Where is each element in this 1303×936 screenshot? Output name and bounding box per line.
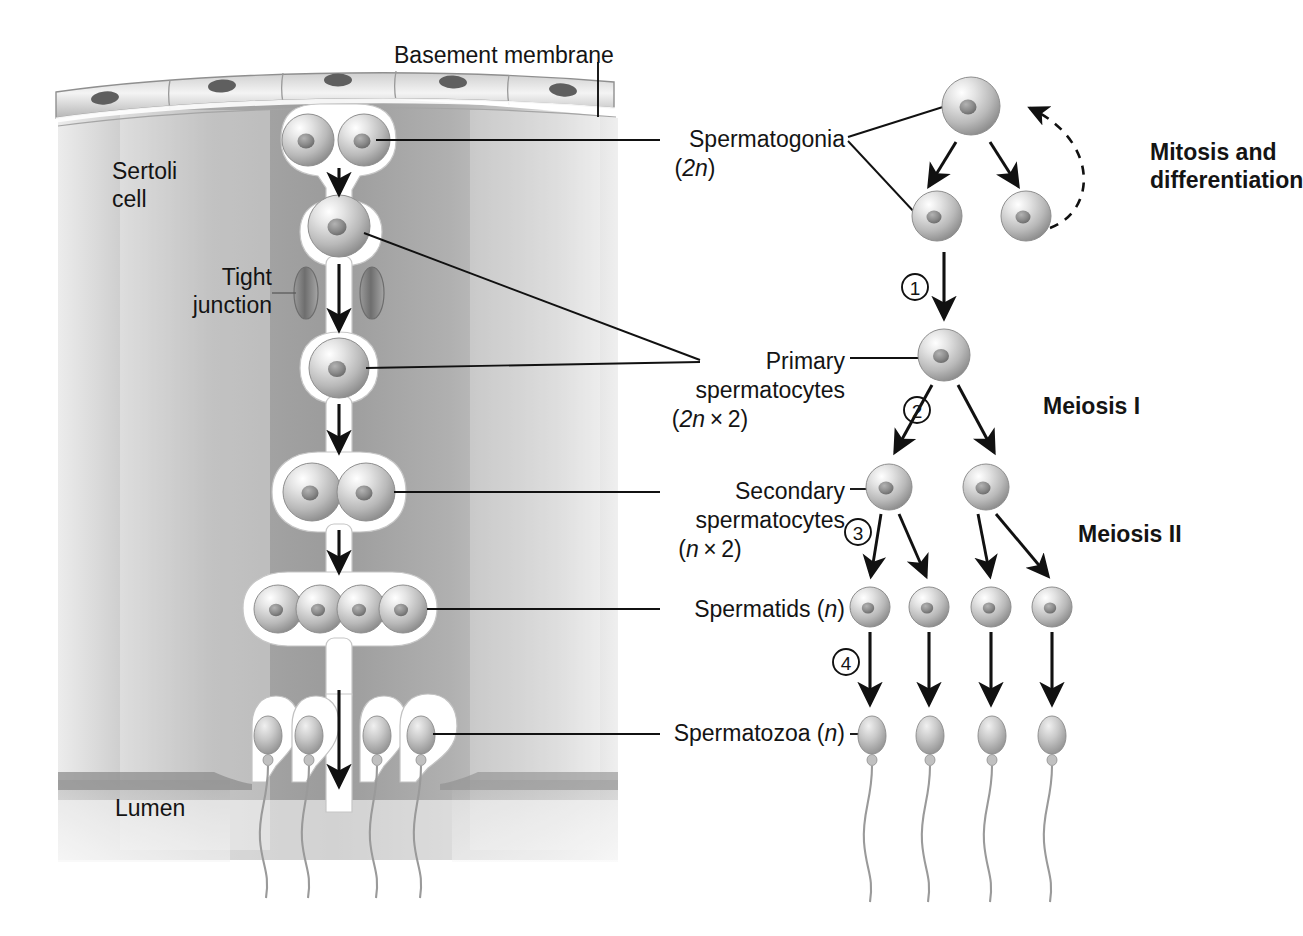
label-spermatozoa: Spermatozoa (n) [525,720,845,747]
cell-spermatid-3 [971,587,1011,627]
cell-secondary-spermatocyte-right [963,464,1009,510]
ploidy-2n-primary: 2n [679,406,705,432]
cell-spermatogonium-daughter-right [1001,191,1051,241]
label-mitosis-line2: differentiation [1150,167,1303,194]
ploidy-n-spermatids: n [825,596,838,622]
label-secondary-spermatocytes-line2: spermatocytes [545,507,845,534]
step-1-number: 1 [895,275,935,302]
cell-spermatid-4 [1032,587,1072,627]
label-mitosis-line1: Mitosis and [1150,139,1277,166]
step-2-number: 2 [897,398,937,425]
label-tight-junction-line1: Tight [52,264,272,291]
cell-spermatozoon-3 [978,716,1006,902]
arrow-meiosis2-b [899,514,926,576]
sertoli-highlight-left [120,110,270,850]
arrow-meiosis2-c [978,514,990,576]
cell-secondary-spermatocyte-left [866,464,912,510]
leader-spermatogonia-to-stem [848,106,946,137]
step-4-number: 4 [826,650,866,677]
lineage-flow [833,77,1084,902]
label-tight-junction-line2: junction [52,292,272,319]
cell-spermatid-1 [850,587,890,627]
label-spermatids: Spermatids (n) [545,596,845,623]
cell-spermatid-2 [909,587,949,627]
tubule-primary-spermatocyte [308,195,370,257]
label-spermatogonia: Spermatogonia [545,126,845,153]
label-secondary-spermatocytes-ploidy: (n × 2) [610,536,810,563]
cell-primary-spermatocyte [918,329,970,381]
cell-spermatogonium-daughter-left [912,191,962,241]
cell-spermatozoon-1 [858,716,886,902]
label-primary-spermatocytes-line2: spermatocytes [545,377,845,404]
arrow-mitosis-left [929,142,956,186]
label-basement-membrane: Basement membrane [394,42,594,69]
cell-spermatogonium-stem [942,77,1000,135]
label-meiosis-1: Meiosis I [1043,393,1140,420]
label-primary-spermatocytes-line1: Primary [545,348,845,375]
label-meiosis-2: Meiosis II [1078,521,1182,548]
step-3-number: 3 [838,520,878,547]
tubule-secondary-spermatocyte-single [309,338,369,398]
cell-spermatozoon-4 [1038,716,1066,902]
cell-spermatozoon-2 [916,716,944,902]
arrow-mitosis-right [990,142,1018,186]
ploidy-n-secondary: n [686,536,699,562]
label-secondary-spermatocytes-line1: Secondary [545,478,845,505]
arrow-meiosis1-right [958,385,994,452]
label-sertoli-cell-line1: Sertoli [112,158,177,185]
label-lumen: Lumen [115,795,185,822]
label-spermatogonia-ploidy: (2n) [595,155,795,182]
label-primary-spermatocytes-ploidy: (2n × 2) [610,406,810,433]
leader-spermatogonia-to-daughter [848,141,916,214]
ploidy-2n-spermatogonia: 2n [682,155,708,181]
ploidy-n-spermatozoa: n [825,720,838,746]
arrow-meiosis2-d [996,514,1048,576]
label-sertoli-cell-line2: cell [112,186,147,213]
